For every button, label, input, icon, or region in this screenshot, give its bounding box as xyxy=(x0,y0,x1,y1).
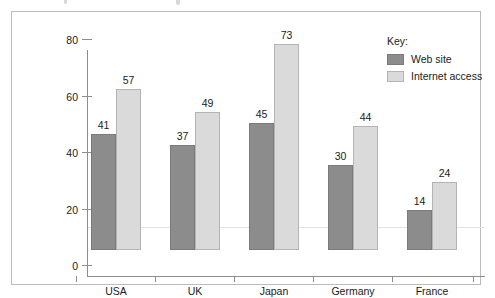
legend-label-web-site: Web site xyxy=(411,54,452,65)
bar-label-japan-internet-access: 73 xyxy=(281,30,293,41)
bar-germany-internet-access[interactable]: 44 xyxy=(353,126,378,250)
y-axis-line xyxy=(87,50,88,277)
web-site-swatch-icon xyxy=(387,54,404,65)
bar-label-usa-web-site: 41 xyxy=(98,120,110,131)
bar-label-germany-internet-access: 44 xyxy=(360,112,372,123)
y-axis-labels: 80 60 40 20 0 xyxy=(12,12,78,284)
x-tick-mark-4 xyxy=(313,276,314,282)
x-tick-mark-1 xyxy=(76,276,77,282)
bar-label-france-internet-access: 24 xyxy=(439,168,451,179)
x-axis-label-uk: UK xyxy=(170,286,220,297)
legend-title: Key: xyxy=(387,36,482,47)
legend-item-web-site[interactable]: Web site xyxy=(387,54,482,65)
y-tick-label-80: 80 xyxy=(44,35,78,46)
bar-germany-web-site[interactable]: 30 xyxy=(328,165,353,250)
y-tick-label-40: 40 xyxy=(44,148,78,159)
legend-label-internet-access: Internet access xyxy=(411,71,482,82)
bar-label-uk-internet-access: 49 xyxy=(202,98,214,109)
x-axis-label-germany: Germany xyxy=(324,286,382,297)
legend-item-internet-access[interactable]: Internet access xyxy=(387,71,482,82)
x-tick-mark-2 xyxy=(155,276,156,282)
y-tick-mark-80 xyxy=(82,39,92,40)
bar-france-web-site[interactable]: 14 xyxy=(407,210,432,250)
bar-label-france-web-site: 14 xyxy=(414,196,426,207)
chart-legend: Key: Web site Internet access xyxy=(387,36,482,88)
bar-label-germany-web-site: 30 xyxy=(335,151,347,162)
y-tick-label-0: 0 xyxy=(44,261,78,272)
y-tick-label-60: 60 xyxy=(44,92,78,103)
bar-usa-internet-access[interactable]: 57 xyxy=(116,89,141,250)
x-axis-label-france: France xyxy=(407,286,457,297)
chart-frame: 80 60 40 20 0 41 57 37 xyxy=(11,11,481,285)
y-tick-mark-0 xyxy=(82,265,92,266)
x-axis-label-usa: USA xyxy=(91,286,141,297)
bar-uk-internet-access[interactable]: 49 xyxy=(195,112,220,250)
y-tick-label-20: 20 xyxy=(44,205,78,216)
bar-uk-web-site[interactable]: 37 xyxy=(170,145,195,250)
bar-japan-internet-access[interactable]: 73 xyxy=(274,44,299,250)
bar-france-internet-access[interactable]: 24 xyxy=(432,182,457,250)
x-tick-mark-3 xyxy=(234,276,235,282)
bar-usa-web-site[interactable]: 41 xyxy=(91,134,116,250)
x-tick-mark-6 xyxy=(473,276,474,282)
x-axis-label-japan: Japan xyxy=(249,286,299,297)
x-tick-mark-5 xyxy=(392,276,393,282)
bar-label-usa-internet-access: 57 xyxy=(123,75,135,86)
bar-label-uk-web-site: 37 xyxy=(177,131,189,142)
internet-access-swatch-icon xyxy=(387,71,404,82)
x-axis-line xyxy=(87,276,485,277)
bar-japan-web-site[interactable]: 45 xyxy=(249,123,274,250)
scan-artifact xyxy=(46,0,346,6)
bar-label-japan-web-site: 45 xyxy=(256,109,268,120)
